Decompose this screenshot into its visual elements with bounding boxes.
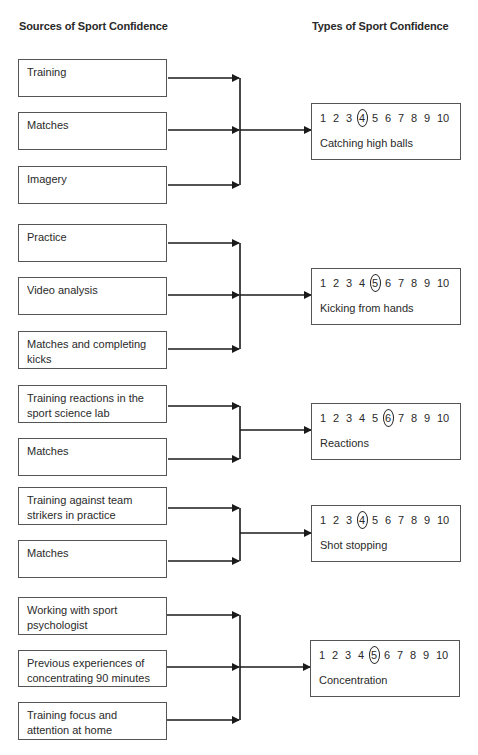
rating-number: 6 [385,513,398,527]
rating-number: 5 [372,111,385,125]
rating-number: 1 [320,513,333,527]
source-box-training-reactions: Training reactions in the sport science … [18,385,167,423]
source-box-training-focus: Training focus and attention at home [18,702,167,740]
rating-number: 9 [424,411,437,425]
rating-number: 7 [398,276,411,290]
rating-number: 1 [320,276,333,290]
rating-number: 10 [437,513,453,527]
source-box-training-against-strikers: Training against team strikers in practi… [18,487,167,525]
type-label: Concentration [319,674,459,686]
rating-number: 9 [424,513,437,527]
rating-number: 10 [436,648,452,662]
type-label: Catching high balls [320,137,460,149]
rating-number: 5 [372,513,385,527]
type-box-reactions: 12345678910 Reactions [311,403,461,460]
rating-number: 3 [346,276,359,290]
selected-rating-circle: 4 [359,513,372,527]
rating-number: 6 [385,276,398,290]
source-box-practice: Practice [18,224,167,262]
source-box-sport-psychologist: Working with sport psychologist [18,597,167,635]
rating-number: 1 [319,648,332,662]
selected-rating-circle: 6 [385,411,398,425]
rating-number: 3 [346,411,359,425]
rating-number: 4 [359,411,372,425]
type-box-concentration: 12345678910 Concentration [310,640,460,697]
type-box-kicking-from-hands: 12345678910 Kicking from hands [311,268,461,325]
rating-number: 7 [397,648,410,662]
rating-number: 3 [345,648,358,662]
rating-number: 2 [333,111,346,125]
source-box-matches: Matches [18,540,167,578]
selected-rating-circle: 4 [359,111,372,125]
source-box-matches-completing-kicks: Matches and completing kicks [18,331,167,369]
rating-number: 10 [437,111,453,125]
rating-number: 7 [398,411,411,425]
selected-rating-circle: 5 [372,276,385,290]
rating-scale: 12345678910 [320,111,460,125]
rating-number: 2 [332,648,345,662]
source-box-imagery: Imagery [18,166,167,204]
rating-number: 7 [398,513,411,527]
rating-number: 8 [411,411,424,425]
rating-scale: 12345678910 [320,276,460,290]
type-label: Kicking from hands [320,302,460,314]
rating-number: 2 [333,513,346,527]
rating-scale: 12345678910 [319,648,459,662]
type-label: Shot stopping [320,539,460,551]
source-box-matches: Matches [18,112,167,150]
rating-number: 1 [320,411,333,425]
rating-number: 9 [424,276,437,290]
rating-number: 9 [423,648,436,662]
rating-scale: 12345678910 [320,513,460,527]
rating-number: 9 [424,111,437,125]
rating-number: 10 [437,411,453,425]
rating-number: 10 [437,276,453,290]
type-box-shot-stopping: 12345678910 Shot stopping [311,505,461,562]
rating-number: 6 [384,648,397,662]
rating-number: 8 [411,513,424,527]
source-box-training: Training [18,59,167,97]
rating-number: 1 [320,111,333,125]
rating-number: 8 [411,276,424,290]
source-box-video-analysis: Video analysis [18,277,167,315]
rating-scale: 12345678910 [320,411,460,425]
rating-number: 6 [385,111,398,125]
rating-number: 7 [398,111,411,125]
rating-number: 2 [333,276,346,290]
source-box-previous-experiences: Previous experiences of concentrating 90… [18,650,167,687]
source-box-matches: Matches [18,438,167,476]
rating-number: 8 [411,111,424,125]
selected-rating-circle: 5 [371,648,384,662]
rating-number: 8 [410,648,423,662]
rating-number: 2 [333,411,346,425]
type-label: Reactions [320,437,460,449]
type-box-catching-high-balls: 12345678910 Catching high balls [311,103,461,160]
